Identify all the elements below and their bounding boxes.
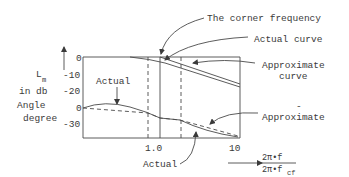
actual-curve-label: Actual curve xyxy=(254,34,323,45)
phase-approximate-curve xyxy=(83,108,238,136)
angle-label-line1: Angle xyxy=(17,100,46,111)
approximate-phase-label: Approximate xyxy=(262,112,325,123)
magnitude-units: in db xyxy=(19,86,48,97)
actual-phase-label-top: Actual xyxy=(96,76,131,87)
tick-angle-minus30: -30 xyxy=(63,119,80,130)
tick-mag-minus10: -10 xyxy=(63,70,80,81)
corner-frequency-arrow-icon xyxy=(161,18,204,54)
ratio-denominator-main: 2π•f xyxy=(262,165,282,175)
tick-mag-minus20: -20 xyxy=(63,86,80,97)
ratio-denominator-sub: cf xyxy=(287,169,295,177)
actual-phase-label-bottom: Actual xyxy=(143,159,178,170)
dot-mark: - xyxy=(296,101,302,112)
actual-phase-bottom-arrow-icon xyxy=(180,132,196,164)
tick-x-10: 10 xyxy=(229,143,241,154)
ratio-numerator: 2π•f xyxy=(262,153,282,163)
bode-diagram: L m in db Angle degree 0 -10 -20 0 -30 1… xyxy=(0,0,349,177)
tick-angle-0: 0 xyxy=(76,103,82,114)
tick-mag-0: 0 xyxy=(76,53,82,64)
corner-frequency-label: The corner frequency xyxy=(207,13,321,24)
approximate-curve-label-line2: curve xyxy=(279,71,308,82)
tick-x-1: 1.0 xyxy=(145,143,162,154)
plot-frame xyxy=(83,57,240,138)
magnitude-label-sub: m xyxy=(42,76,46,84)
approximate-curve-label-line1: Approximate xyxy=(262,60,325,71)
angle-label-line2: degree xyxy=(23,113,58,124)
magnitude-approximate-asymptote xyxy=(160,57,240,84)
magnitude-actual-curve xyxy=(130,57,240,87)
approximate-phase-arrow-icon xyxy=(210,113,258,124)
approximate-curve-arrow-icon xyxy=(193,61,255,64)
